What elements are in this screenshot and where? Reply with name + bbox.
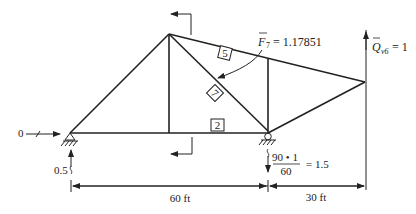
svg-text:7: 7	[266, 41, 270, 50]
dimension-left-span: 60 ft	[170, 192, 190, 204]
section-cut-bottom	[171, 137, 192, 154]
unit-load-qv6: Q v6 = 1	[366, 30, 408, 190]
truss-diagram: 5 7 2 F 7 = 1.17851 0 0.5	[0, 0, 416, 214]
member-left-diagonal	[70, 34, 169, 133]
section-cut-top	[171, 14, 191, 35]
svg-text:F: F	[257, 35, 266, 49]
right-reaction: 90 • 1 60 = 1.5	[267, 149, 329, 177]
svg-text:Q: Q	[372, 40, 381, 54]
left-vertical-reaction: 0.5	[54, 150, 72, 176]
svg-text:60: 60	[281, 165, 293, 177]
left-horizontal-reaction: 0	[18, 127, 60, 139]
svg-text:v6: v6	[381, 47, 389, 56]
dimension-right-overhang: 30 ft	[306, 191, 326, 203]
svg-text:= 1.17851: = 1.17851	[273, 35, 322, 49]
member-label-7: 7	[207, 85, 224, 102]
member-label-5: 5	[218, 46, 233, 61]
svg-text:90 • 1: 90 • 1	[272, 151, 298, 163]
right-roller-support	[259, 133, 276, 145]
svg-text:= 1: = 1	[392, 40, 408, 54]
left-pin-support	[61, 133, 78, 146]
svg-text:= 1.5: = 1.5	[306, 158, 329, 170]
svg-text:2: 2	[215, 119, 221, 131]
member-lower-right	[268, 82, 365, 133]
svg-text:0.5: 0.5	[54, 164, 68, 176]
svg-text:0: 0	[18, 127, 24, 139]
member-label-2: 2	[211, 119, 224, 131]
member-diagonal-7	[169, 34, 268, 131]
svg-text:5: 5	[222, 47, 228, 59]
force-f7-annotation: F 7 = 1.17851	[218, 33, 322, 78]
